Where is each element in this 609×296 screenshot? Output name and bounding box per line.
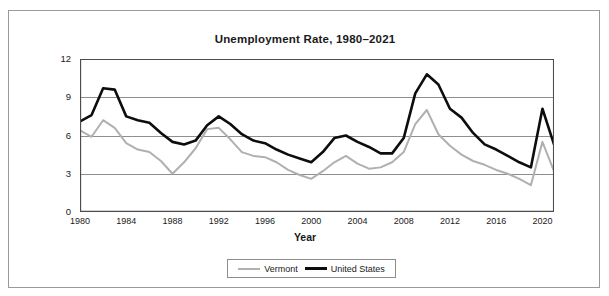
y-tick-label: 12 bbox=[49, 53, 71, 64]
legend-item-vermont: Vermont bbox=[238, 264, 298, 274]
axis-tick-marks bbox=[80, 60, 554, 213]
gridlines bbox=[80, 98, 554, 175]
x-tick-label: 2004 bbox=[337, 216, 377, 226]
legend-label-vermont: Vermont bbox=[264, 264, 298, 274]
y-tick-label: 9 bbox=[49, 91, 71, 102]
x-axis-label: Year bbox=[9, 231, 601, 243]
x-tick-label: 1984 bbox=[106, 216, 146, 226]
x-tick-label: 2008 bbox=[384, 216, 424, 226]
x-tick-label: 2020 bbox=[522, 216, 562, 226]
x-tick-label: 1996 bbox=[245, 216, 285, 226]
x-tick-label: 2016 bbox=[476, 216, 516, 226]
y-tick-label: 3 bbox=[49, 168, 71, 179]
data-series-layer bbox=[80, 74, 554, 185]
legend-item-united-states: United States bbox=[305, 264, 385, 274]
series-line-vermont bbox=[80, 110, 554, 185]
x-tick-label: 1992 bbox=[199, 216, 239, 226]
x-tick-label: 2012 bbox=[430, 216, 470, 226]
legend-label-united-states: United States bbox=[331, 264, 385, 274]
plot-area bbox=[80, 59, 554, 212]
line-chart-svg bbox=[80, 59, 554, 212]
y-tick-label: 6 bbox=[49, 130, 71, 141]
chart-figure-frame: Unemployment Rate, 1980–2021 Percent 036… bbox=[8, 10, 600, 288]
legend-swatch-united-states-icon bbox=[305, 267, 327, 270]
chart-legend: Vermont United States bbox=[227, 259, 396, 278]
chart-title: Unemployment Rate, 1980–2021 bbox=[9, 33, 601, 45]
x-tick-label: 1980 bbox=[60, 216, 100, 226]
x-tick-label: 2000 bbox=[291, 216, 331, 226]
x-tick-label: 1988 bbox=[152, 216, 192, 226]
legend-swatch-vermont-icon bbox=[238, 268, 260, 270]
